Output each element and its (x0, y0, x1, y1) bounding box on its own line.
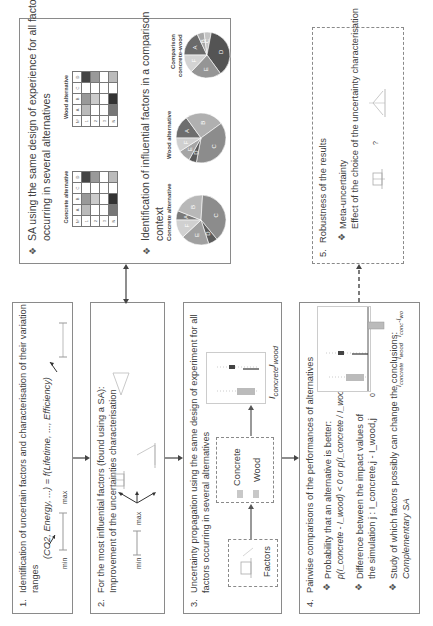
concrete-sample-table: N°ABCD 1 2 3 N (72, 171, 118, 227)
pie-wood-caption: Wood alternative (166, 111, 172, 159)
pie-comparison-caption-line1: Comparison (170, 34, 176, 69)
svg-text:E: E (187, 147, 193, 151)
svg-text:D: D (218, 49, 224, 54)
svg-text:A: A (192, 45, 198, 49)
svg-text:E: E (203, 67, 209, 71)
wood-sample-table: N°ABCD 1 2 3 N (72, 71, 118, 127)
pie-comparison-caption-line2: concrete-wood (177, 34, 183, 77)
question-mark: ? (371, 141, 380, 145)
distribution-choice-icon (313, 26, 405, 263)
svg-text:C: C (213, 212, 219, 217)
wood-table-caption: Wood alternative (63, 67, 69, 127)
svg-text:E: E (194, 233, 200, 237)
diamond-bullet-icon: ❖ (28, 247, 38, 255)
step-5-box: 5. Robustness of the results ❖ Meta-unce… (312, 27, 404, 264)
diamond-bullet-icon: ❖ (142, 247, 152, 255)
flowchart-stage: 1. Identification of uncertain factors a… (0, 0, 433, 626)
pie-chart-comparison: ABCDEF (184, 32, 230, 78)
svg-text:F: F (183, 140, 189, 144)
svg-text:A: A (183, 215, 189, 219)
svg-text:B: B (200, 121, 206, 125)
svg-text:C: C (211, 143, 217, 148)
concrete-table-caption: Concrete alternative (63, 167, 69, 227)
pie-chart-concrete: ABCDEF (176, 195, 226, 245)
svg-text:B: B (190, 205, 196, 209)
sa-bullet1-line2: occurring in several alternatives (40, 93, 52, 241)
sa-bullet1-line1: SA using the same design of experience f… (26, 0, 38, 241)
svg-text:F: F (184, 224, 190, 228)
svg-text:D: D (205, 231, 211, 236)
svg-text:A: A (184, 129, 190, 133)
sa-box: ❖ SA using the same design of experience… (19, 18, 231, 264)
sa-bullet2-line1: Identification of influential factors in… (139, 12, 151, 241)
pie-concrete-caption: Concrete alternative (166, 183, 172, 241)
sa-bullet2-line2: context (153, 207, 165, 241)
pie-chart-wood: ABCDEF (176, 113, 226, 163)
svg-text:F: F (191, 58, 197, 62)
